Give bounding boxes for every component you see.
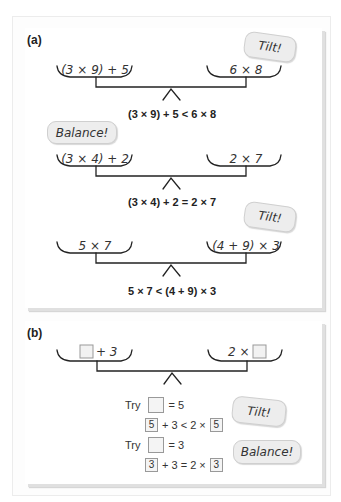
scale-right-prefix: 2 × xyxy=(228,345,250,359)
balance-scales-a: (3 × 9) + 5 6 × 8 (3 × 4) + 2 2 × 7 5 × … xyxy=(25,28,322,308)
panel-b: (b) + 3 2 × Try = 5 5 + 3 < 2 × 5 Try = … xyxy=(25,321,322,484)
balance-badge: Balance! xyxy=(47,121,117,144)
tilt-badge: Tilt! xyxy=(231,395,288,427)
try-row-2: Try = 3 xyxy=(125,437,184,453)
scale2-left-pan: (3 × 4) + 2 xyxy=(61,152,129,166)
scale1-left-pan: (3 × 9) + 5 xyxy=(61,63,129,77)
unknown-box-right xyxy=(253,345,266,358)
scale2-equation: (3 × 4) + 2 = 2 × 7 xyxy=(128,196,216,208)
unknown-box xyxy=(148,397,164,413)
scale3-left-pan: 5 × 7 xyxy=(79,239,112,253)
scale1-right-pan: 6 × 8 xyxy=(230,63,263,77)
result-middle: + 3 = 2 × xyxy=(162,459,206,471)
scale-left-suffix: + 3 xyxy=(96,345,118,359)
try-label: Try xyxy=(125,399,140,411)
unknown-box-left xyxy=(80,345,93,358)
value-box: 3 xyxy=(210,458,223,472)
value-box: 3 xyxy=(145,458,158,472)
panel-a: (a) (3 × 9) + 5 6 × 8 (3 × 4) + 2 2 × 7 … xyxy=(25,28,322,308)
value-box: 5 xyxy=(145,418,158,432)
try-row-1: Try = 5 xyxy=(125,397,184,413)
try-label: Try xyxy=(125,439,140,451)
value-box: 5 xyxy=(210,418,223,432)
result-middle: + 3 < 2 × xyxy=(162,419,206,431)
scale2-right-pan: 2 × 7 xyxy=(230,152,263,166)
scale3-right-pan: (4 + 9) × 3 xyxy=(212,239,280,253)
scale1-equation: (3 × 9) + 5 < 6 × 8 xyxy=(128,108,216,120)
unknown-box xyxy=(148,437,164,453)
scale3-equation: 5 × 7 < (4 + 9) × 3 xyxy=(128,285,216,297)
result-row-1: 5 + 3 < 2 × 5 xyxy=(145,418,223,432)
try-value: = 3 xyxy=(168,439,184,451)
result-row-2: 3 + 3 = 2 × 3 xyxy=(145,458,223,472)
try-value: = 5 xyxy=(168,399,184,411)
balance-badge: Balance! xyxy=(233,440,301,464)
